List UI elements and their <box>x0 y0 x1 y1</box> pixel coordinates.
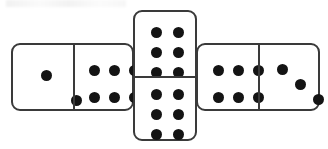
pip-icon <box>151 109 162 120</box>
pip-icon <box>313 94 324 105</box>
pip-icon <box>151 27 162 38</box>
pip-icon <box>213 65 224 76</box>
pip-icon <box>151 89 162 100</box>
pip-icon <box>89 65 100 76</box>
pip-icon <box>233 92 244 103</box>
pip-icon <box>173 89 184 100</box>
pip-icon <box>213 92 224 103</box>
pip-icon <box>173 109 184 120</box>
center-domino-top-half <box>135 12 195 76</box>
pip-icon <box>151 47 162 58</box>
pip-icon <box>173 129 184 140</box>
pip-icon <box>151 129 162 140</box>
left-domino-left-half <box>13 45 73 109</box>
pip-icon <box>295 79 306 90</box>
right-domino[interactable] <box>196 43 320 111</box>
center-domino-bottom-half <box>135 76 195 140</box>
center-domino[interactable] <box>133 10 197 141</box>
pip-icon <box>233 65 244 76</box>
pip-icon <box>89 92 100 103</box>
pip-icon <box>173 47 184 58</box>
left-domino-right-half <box>73 45 133 109</box>
left-domino[interactable] <box>11 43 134 111</box>
pip-icon <box>277 64 288 75</box>
scan-artifact <box>6 0 126 7</box>
right-domino-left-half <box>198 45 258 109</box>
pip-icon <box>173 27 184 38</box>
pip-icon <box>109 92 120 103</box>
pip-icon <box>109 65 120 76</box>
right-domino-right-half <box>258 45 318 109</box>
pip-icon <box>41 70 52 81</box>
domino-scene <box>0 0 328 149</box>
